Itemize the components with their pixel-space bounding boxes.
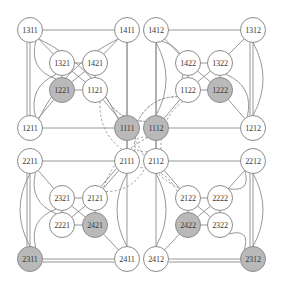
graph-edge — [101, 168, 117, 186]
node-label: 1411 — [119, 26, 134, 35]
graph-edge — [165, 39, 180, 54]
node-label: 1121 — [87, 86, 102, 95]
graph-node[interactable]: 1411 — [115, 18, 140, 43]
graph-node[interactable]: 2222 — [208, 186, 233, 211]
nodes-layer: 1311141114121312132114211422132212211121… — [18, 18, 266, 272]
graph-edge — [164, 170, 180, 188]
node-label: 1122 — [180, 86, 195, 95]
graph-edge-curved — [253, 43, 263, 116]
node-label: 2211 — [22, 157, 37, 166]
graph-edge-curved — [156, 43, 166, 116]
graph-node[interactable]: 2122 — [176, 186, 201, 211]
node-label: 2311 — [22, 255, 37, 264]
graph-edge — [38, 170, 54, 188]
node-label: 2322 — [212, 221, 228, 230]
node-label: 2312 — [245, 255, 261, 264]
node-label: 1422 — [180, 59, 196, 68]
graph-edge-curved — [20, 174, 30, 247]
graph-node[interactable]: 2322 — [208, 213, 233, 238]
graph-node[interactable]: 1121 — [83, 78, 108, 103]
graph-edge — [103, 170, 119, 188]
graph-node[interactable]: 1311 — [18, 18, 43, 43]
graph-canvas: 1311141114121312132114211422132212211121… — [0, 0, 282, 289]
graph-node[interactable]: 1412 — [144, 18, 169, 43]
graph-node[interactable]: 1111 — [115, 116, 140, 141]
graph-node[interactable]: 1221 — [50, 78, 75, 103]
graph-edge — [164, 100, 180, 119]
graph-node[interactable]: 2321 — [50, 186, 75, 211]
graph-node[interactable]: 2111 — [115, 149, 140, 174]
node-label: 2121 — [87, 194, 103, 203]
node-label: 1322 — [212, 59, 228, 68]
graph-edge — [228, 99, 245, 118]
node-label: 1221 — [54, 86, 70, 95]
graph-edge-curved — [229, 233, 246, 250]
node-label: 2422 — [180, 221, 196, 230]
graph-edge — [103, 100, 119, 119]
node-label: 1421 — [87, 59, 103, 68]
graph-edge-curved — [117, 174, 127, 247]
node-label: 1112 — [149, 124, 164, 133]
node-label: 2412 — [148, 255, 164, 264]
graph-node[interactable]: 2311 — [18, 247, 43, 272]
graph-node[interactable]: 2421 — [83, 213, 108, 238]
graph-node[interactable]: 2221 — [50, 213, 75, 238]
graph-edge — [228, 170, 244, 188]
node-label: 2411 — [119, 255, 134, 264]
graph-node[interactable]: 1421 — [83, 51, 108, 76]
graph-edge — [104, 39, 119, 54]
graph-edge — [39, 39, 54, 54]
graph-node[interactable]: 2211 — [18, 149, 43, 174]
graph-node[interactable]: 1122 — [176, 78, 201, 103]
node-label: 1312 — [245, 26, 261, 35]
graph-edge-curved — [228, 170, 246, 189]
graph-node[interactable]: 2112 — [144, 149, 169, 174]
graph-node[interactable]: 2422 — [176, 213, 201, 238]
graph-node[interactable]: 1312 — [241, 18, 266, 43]
graph-diagram: 1311141114121312132114211422132212211121… — [0, 0, 282, 289]
node-label: 2122 — [180, 194, 196, 203]
node-label: 2111 — [120, 157, 135, 166]
node-label: 1311 — [22, 26, 37, 35]
graph-node[interactable]: 2121 — [83, 186, 108, 211]
node-label: 2222 — [212, 194, 228, 203]
graph-node[interactable]: 2412 — [144, 247, 169, 272]
node-label: 1212 — [245, 124, 261, 133]
graph-node[interactable]: 1222 — [208, 78, 233, 103]
graph-node[interactable]: 1212 — [241, 116, 266, 141]
node-label: 1412 — [148, 26, 164, 35]
graph-node[interactable]: 1321 — [50, 51, 75, 76]
graph-node[interactable]: 1112 — [144, 116, 169, 141]
graph-edge-curved — [253, 174, 263, 247]
graph-edge — [38, 100, 54, 119]
graph-edge — [229, 39, 244, 54]
node-label: 1222 — [212, 86, 228, 95]
graph-edge-curved — [156, 174, 166, 247]
graph-node[interactable]: 1322 — [208, 51, 233, 76]
node-label: 2321 — [54, 194, 70, 203]
node-label: 2112 — [148, 157, 163, 166]
node-label: 1211 — [22, 124, 37, 133]
graph-edge — [104, 234, 119, 250]
graph-node[interactable]: 2212 — [241, 149, 266, 174]
graph-node[interactable]: 2312 — [241, 247, 266, 272]
node-label: 2221 — [54, 221, 70, 230]
node-label: 2212 — [245, 157, 261, 166]
graph-node[interactable]: 1422 — [176, 51, 201, 76]
graph-edge — [165, 234, 180, 250]
graph-node[interactable]: 2411 — [115, 247, 140, 272]
node-label: 2421 — [87, 221, 103, 230]
node-label: 1111 — [120, 124, 135, 133]
graph-node[interactable]: 1211 — [18, 116, 43, 141]
node-label: 1321 — [54, 59, 70, 68]
